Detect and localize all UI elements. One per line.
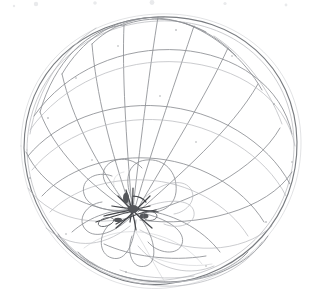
wire-basket-drawing: Wire basket line drawing Pencil line dra…	[0, 0, 318, 306]
paper-background	[0, 0, 318, 306]
artboard: Wire basket line drawing Pencil line dra…	[0, 0, 318, 306]
